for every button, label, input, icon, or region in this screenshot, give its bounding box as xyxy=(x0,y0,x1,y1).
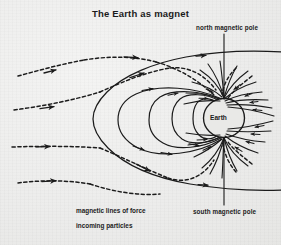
legend-item-incoming-particles: incoming particles xyxy=(22,222,132,229)
earth-label: Earth xyxy=(210,114,227,121)
incoming-particle-streams xyxy=(12,60,100,184)
particle-stream-2 xyxy=(14,92,100,110)
particle-stream-3 xyxy=(12,146,100,148)
particle-stream-1 xyxy=(18,60,84,76)
legend-item-magnetic-lines: magnetic lines of force xyxy=(22,207,146,214)
legend-label-incoming-particles: incoming particles xyxy=(76,222,132,229)
legend-label-magnetic-lines: magnetic lines of force xyxy=(76,207,146,214)
magnetopause-boundary xyxy=(93,51,281,190)
figure-title: The Earth as magnet xyxy=(0,8,281,19)
north-pole-label: north magnetic pole xyxy=(196,24,258,31)
dashed-line-icon xyxy=(22,222,70,229)
solid-line-icon xyxy=(22,207,70,214)
